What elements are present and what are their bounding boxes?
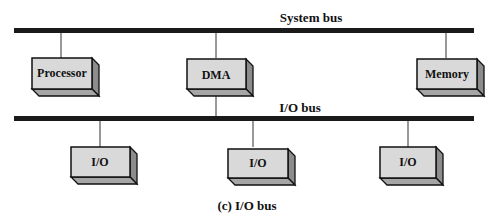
io-bus-diagram: System bus Processor DMA Memory I/O bus … xyxy=(0,0,496,221)
system-bus xyxy=(14,28,474,33)
processor-label: Processor xyxy=(37,66,87,80)
dma-module: DMA xyxy=(187,59,253,96)
memory-label: Memory xyxy=(425,67,469,81)
io1-label: I/O xyxy=(91,155,108,169)
io3-label: I/O xyxy=(399,155,416,169)
io2-label: I/O xyxy=(249,156,266,170)
io-bus-label: I/O bus xyxy=(279,100,321,115)
io-module-2: I/O xyxy=(228,149,295,185)
io-module-1: I/O xyxy=(71,147,137,184)
system-bus-label: System bus xyxy=(280,10,343,25)
dma-label: DMA xyxy=(202,68,231,82)
io-bus xyxy=(14,116,474,121)
io-module-3: I/O xyxy=(380,147,443,185)
memory-module: Memory xyxy=(417,59,484,96)
figure-caption: (c) I/O bus xyxy=(217,198,276,213)
processor-module: Processor xyxy=(32,58,99,96)
